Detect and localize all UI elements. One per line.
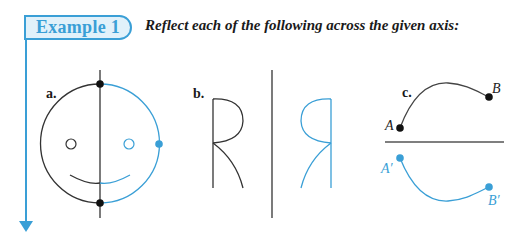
point-b-label: B [492, 81, 501, 96]
right-point-reflection [155, 140, 163, 148]
r-bowl-reflection [301, 99, 331, 143]
circle-right-half-reflection [100, 84, 160, 203]
r-leg-reflection [301, 143, 331, 188]
r-bowl [213, 99, 243, 143]
figure-a-label: a. [46, 86, 57, 101]
top-point [96, 80, 104, 88]
figure-a: a. [41, 70, 163, 218]
figure-c: c. A B A′ B′ [380, 81, 504, 208]
figure-b-label: b. [193, 86, 204, 101]
smile-right-reflection [100, 175, 130, 183]
right-eye-reflection [124, 139, 134, 149]
circle-left-half [41, 84, 100, 203]
bottom-point [96, 199, 104, 207]
point-a-prime [396, 154, 404, 162]
point-a-label: A [384, 118, 394, 133]
smile-left [70, 175, 100, 183]
curve-ab-reflection [400, 158, 489, 201]
left-eye [66, 139, 76, 149]
figure-b: b. [193, 70, 331, 218]
point-a [396, 124, 404, 132]
curve-ab [400, 83, 489, 128]
r-leg [213, 143, 243, 188]
point-b-prime-label: B′ [488, 193, 501, 208]
figures-canvas: a. b. c. A B [0, 0, 523, 240]
figure-c-label: c. [402, 85, 412, 100]
point-a-prime-label: A′ [380, 161, 394, 176]
point-b-prime [485, 183, 493, 191]
